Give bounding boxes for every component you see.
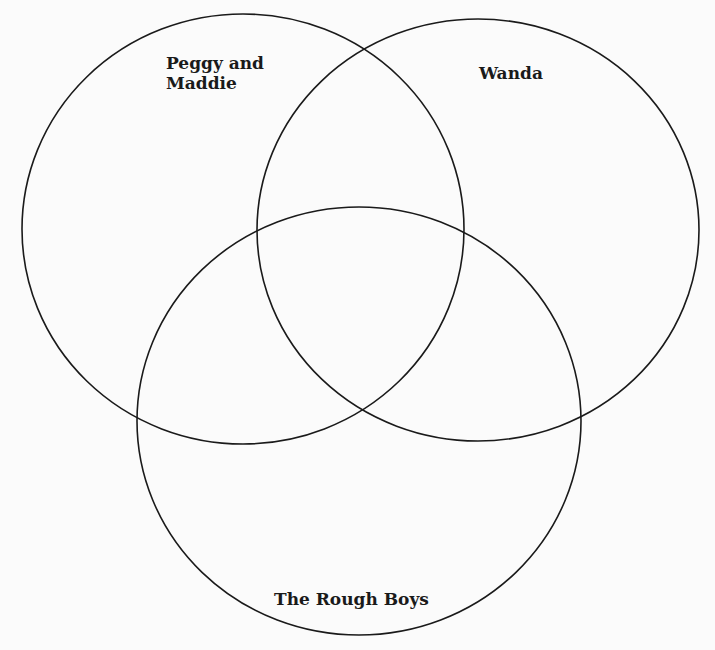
circle-the-rough-boys — [137, 207, 581, 635]
label-wanda: Wanda — [479, 63, 543, 83]
label-the-rough-boys: The Rough Boys — [274, 589, 429, 609]
label-peggy-and-maddie: Peggy and Maddie — [166, 53, 264, 93]
venn-diagram — [0, 0, 715, 650]
circle-wanda — [257, 19, 699, 441]
